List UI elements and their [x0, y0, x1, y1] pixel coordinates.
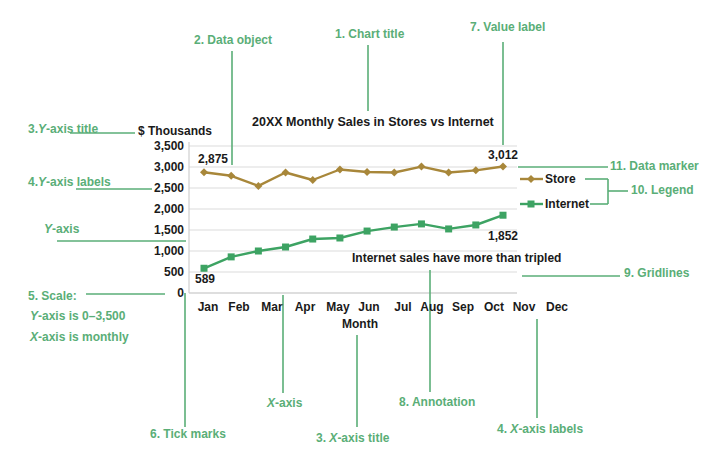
chart-title: 20XX Monthly Sales in Stores vs Internet [252, 115, 494, 129]
callout-text: -axis labels [46, 175, 111, 189]
x-tick-label: Apr [295, 300, 316, 314]
callout-italic: Y [44, 222, 52, 236]
diamond-marker-icon [200, 168, 208, 176]
value-label-internet-first: 589 [195, 272, 215, 286]
callout-num: 4. [497, 422, 507, 436]
callout-annotation: 8. Annotation [399, 395, 475, 409]
callout-chart-title: 1. Chart title [335, 27, 404, 41]
value-label-store-last: 3,012 [488, 148, 518, 162]
callout-italic: Y [30, 309, 38, 323]
square-marker-icon [255, 248, 262, 255]
callout-gridlines: 9. Gridlines [624, 266, 689, 280]
callout-text: -axis [275, 396, 302, 410]
x-tick-label: Mar [261, 300, 282, 314]
diamond-marker-icon [282, 168, 290, 176]
callout-text: -axis labels [518, 422, 583, 436]
x-tick-label: Oct [484, 300, 504, 314]
callout-num: 3. [316, 431, 326, 445]
x-tick-label: Jun [358, 300, 379, 314]
callout-y-axis: Y-axis [44, 222, 79, 236]
diamond-marker-icon [227, 172, 235, 180]
callout-italic: Y [38, 175, 46, 189]
diamond-marker-icon [363, 168, 371, 176]
callout-x-axis: X-axis [267, 396, 302, 410]
diamond-marker-icon [390, 168, 398, 176]
x-tick-label: May [326, 300, 349, 314]
chart-annotation: Internet sales have more than tripled [352, 251, 561, 265]
y-tick-label: 0 [177, 286, 184, 300]
callout-text: -axis is 0–3,500 [38, 309, 125, 323]
square-marker-icon [364, 228, 371, 235]
diamond-marker-icon [445, 168, 453, 176]
x-tick-label: Nov [513, 300, 536, 314]
diamond-marker-icon [309, 176, 317, 184]
x-tick-label: Sep [452, 300, 474, 314]
square-marker-icon [336, 234, 343, 241]
legend-internet-label: Internet [545, 197, 589, 211]
square-marker-icon [472, 221, 479, 228]
x-tick-label: Jul [394, 300, 411, 314]
legend-markers [520, 175, 543, 208]
x-tick-label: Feb [228, 300, 249, 314]
callout-y-axis-title: 3.Y-axis title [28, 122, 98, 136]
square-marker-icon [391, 224, 398, 231]
callout-text: -axis title [46, 122, 98, 136]
y-tick-label: 500 [164, 265, 184, 279]
callout-num: 3. [28, 122, 38, 136]
callout-italic: Y [38, 122, 46, 136]
callout-italic: X [267, 396, 275, 410]
y-axis-labels: 3,500 3,000 2,500 2,000 1,500 1,000 500 … [120, 0, 184, 459]
callout-scale-title: 5. Scale: [28, 289, 77, 303]
x-tick-label: Aug [420, 300, 443, 314]
legend-diamond-icon [527, 175, 535, 183]
callout-italic: X [30, 330, 38, 344]
callout-x-axis-title: 3. X-axis title [316, 431, 389, 445]
y-tick-label: 2,000 [154, 202, 184, 216]
y-tick-label: 3,000 [154, 160, 184, 174]
square-marker-icon [282, 244, 289, 251]
diamond-marker-icon [417, 163, 425, 171]
callout-tick-marks: 6. Tick marks [150, 427, 226, 441]
x-axis-title: Month [342, 317, 378, 331]
y-tick-label: 3,500 [154, 139, 184, 153]
y-tick-label: 1,000 [154, 244, 184, 258]
gridlines [189, 146, 517, 293]
y-tick-label: 1,500 [154, 223, 184, 237]
y-tick-label: 2,500 [154, 181, 184, 195]
callout-x-axis-labels: 4. X-axis labels [497, 422, 583, 436]
callout-scale-y: Y-axis is 0–3,500 [30, 309, 125, 323]
legend-square-icon [528, 201, 535, 208]
callout-value-label: 7. Value label [470, 20, 545, 34]
callout-num: 4. [28, 175, 38, 189]
diamond-marker-icon [254, 182, 262, 190]
square-marker-icon [445, 225, 452, 232]
value-label-internet-last: 1,852 [488, 229, 518, 243]
legend-store-label: Store [545, 172, 576, 186]
callout-data-object: 2. Data object [194, 33, 272, 47]
callout-legend: 10. Legend [631, 183, 694, 197]
square-marker-icon [228, 253, 235, 260]
axes [189, 142, 517, 293]
square-marker-icon [201, 265, 208, 272]
callout-text: -axis title [337, 431, 389, 445]
callout-data-marker: 11. Data marker [610, 159, 699, 173]
square-marker-icon [418, 220, 425, 227]
value-label-store-first: 2,875 [198, 152, 228, 166]
callout-text: -axis [52, 222, 79, 236]
x-tick-label: Dec [546, 300, 568, 314]
callout-y-axis-labels: 4.Y-axis labels [28, 175, 111, 189]
callout-scale-x: X-axis is monthly [30, 330, 129, 344]
callout-text: -axis is monthly [38, 330, 129, 344]
chart-canvas [0, 0, 718, 459]
square-marker-icon [309, 236, 316, 243]
square-marker-icon [500, 212, 507, 219]
store-line [204, 167, 503, 186]
diamond-marker-icon [499, 162, 507, 170]
x-tick-label: Jan [198, 300, 219, 314]
